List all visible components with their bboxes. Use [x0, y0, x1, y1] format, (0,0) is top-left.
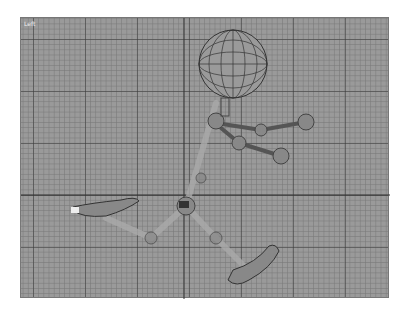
head	[199, 30, 267, 116]
left-foot	[71, 198, 139, 216]
pelvis-marker	[179, 201, 189, 208]
right-foot	[228, 245, 279, 284]
left-viewport[interactable]: Left	[20, 17, 389, 298]
bones	[106, 103, 246, 268]
scene-canvas	[21, 18, 390, 299]
